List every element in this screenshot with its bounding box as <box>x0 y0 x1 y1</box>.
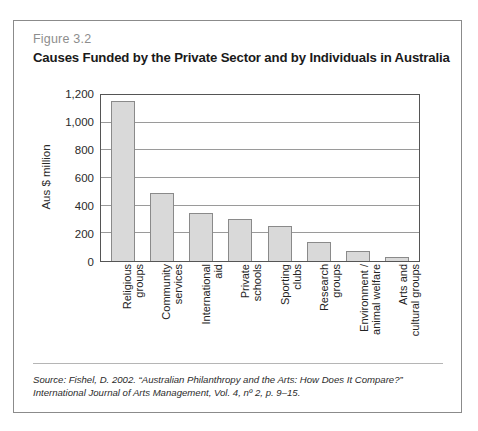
x-tick-label: Communityservices <box>161 264 184 320</box>
source-divider <box>33 363 443 364</box>
y-tick-label: 600 <box>75 172 94 184</box>
bar <box>228 219 252 261</box>
bar <box>385 257 409 261</box>
x-tick-label: Privateschools <box>240 264 263 301</box>
x-axis-tick-labels: ReligiousgroupsCommunityservicesInternat… <box>100 264 420 372</box>
y-tick-label: 0 <box>88 256 94 268</box>
x-tick-label: Internationalaid <box>201 264 224 325</box>
bar <box>111 101 135 261</box>
x-tick-label: Arts andcultural groups <box>398 264 421 336</box>
x-label-slot: Sportingclubs <box>268 264 292 372</box>
bar-series <box>101 95 419 261</box>
figure-container: Figure 3.2 Causes Funded by the Private … <box>13 20 462 413</box>
x-label-slot: Religiousgroups <box>110 264 134 372</box>
x-tick-label: Sportingclubs <box>280 264 303 305</box>
x-label-slot: Environment /animal welfare <box>347 264 371 372</box>
bar <box>189 213 213 261</box>
source-line-2: International Journal of Arts Management… <box>33 387 300 398</box>
plot-area <box>100 94 420 262</box>
y-tick-label: 1,200 <box>65 88 94 100</box>
bar <box>268 226 292 261</box>
bar <box>307 242 331 261</box>
source-note: Source: Fishel, D. 2002. “Australian Phi… <box>33 373 445 399</box>
y-tick-label: 800 <box>75 144 94 156</box>
source-line-1: Source: Fishel, D. 2002. “Australian Phi… <box>33 374 403 385</box>
y-tick-label: 400 <box>75 200 94 212</box>
x-tick-label: Environment /animal welfare <box>359 264 382 335</box>
bar <box>346 251 370 261</box>
figure-number: Figure 3.2 <box>33 32 91 46</box>
figure-title: Causes Funded by the Private Sector and … <box>33 50 450 65</box>
x-tick-label: Researchgroups <box>319 264 342 311</box>
bar <box>150 193 174 261</box>
x-label-slot: Arts andcultural groups <box>386 264 410 372</box>
y-tick-label: 1,000 <box>65 116 94 128</box>
x-label-slot: Communityservices <box>149 264 173 372</box>
x-label-slot: Privateschools <box>228 264 252 372</box>
y-tick-label: 200 <box>75 228 94 240</box>
x-tick-label: Religiousgroups <box>122 264 145 309</box>
x-label-slot: Researchgroups <box>307 264 331 372</box>
x-label-slot: Internationalaid <box>189 264 213 372</box>
y-axis-label: Aus $ million <box>40 117 52 237</box>
